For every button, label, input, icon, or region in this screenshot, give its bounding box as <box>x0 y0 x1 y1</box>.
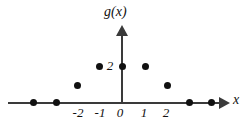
data-point <box>30 99 37 106</box>
data-point <box>119 63 126 70</box>
x-axis-title: x <box>233 92 239 108</box>
data-point <box>186 99 193 106</box>
data-point <box>53 99 60 106</box>
x-axis-tick-label: 1 <box>141 105 148 121</box>
data-point <box>74 82 81 89</box>
data-point <box>164 82 171 89</box>
y-axis-tick-label: 2 <box>107 58 114 74</box>
x-axis-tick-label: 0 <box>117 105 124 121</box>
x-axis-tick-label: -2 <box>73 105 84 121</box>
x-axis-tick-label: -1 <box>95 105 106 121</box>
data-point <box>142 63 149 70</box>
data-point <box>208 99 215 106</box>
y-axis-title: g(x) <box>104 4 127 20</box>
x-axis-tick-label: 2 <box>163 105 170 121</box>
data-point <box>96 63 103 70</box>
scatter-plot-figure: g(x) x 2 -2-1012 <box>0 0 250 126</box>
x-axis-arrow-icon <box>219 97 230 109</box>
y-axis-arrow-icon <box>116 25 128 36</box>
